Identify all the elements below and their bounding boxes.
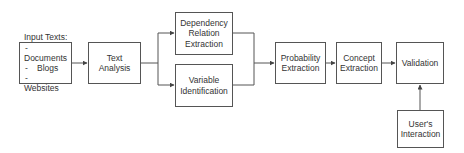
node-users-interaction: User's Interaction (397, 110, 444, 148)
node-concept-extraction: Concept Extraction (336, 42, 382, 84)
input-item-websites: Websites (24, 73, 69, 93)
probability-label: Probability Extraction (278, 53, 323, 73)
concept-label: Concept Extraction (339, 53, 379, 73)
dependency-label: Dependency Relation Extraction (179, 18, 229, 49)
node-validation: Validation (396, 42, 444, 84)
node-text-analysis: Text Analysis (88, 42, 141, 84)
node-dependency-relation-extraction: Dependency Relation Extraction (175, 12, 233, 55)
validation-label: Validation (402, 58, 439, 68)
node-variable-identification: Variable Identification (175, 64, 233, 107)
input-texts-title: Input Texts: (24, 32, 69, 42)
node-probability-extraction: Probability Extraction (275, 42, 326, 84)
node-input-texts: Input Texts: Documents Blogs Websites (19, 42, 72, 84)
input-texts-list: Documents Blogs Websites (24, 43, 69, 94)
input-item-documents: Documents (24, 43, 69, 63)
input-item-blogs: Blogs (24, 63, 69, 73)
variable-label: Variable Identification (178, 75, 230, 95)
users-interaction-label: User's Interaction (400, 119, 441, 139)
text-analysis-label: Text Analysis (91, 53, 138, 73)
